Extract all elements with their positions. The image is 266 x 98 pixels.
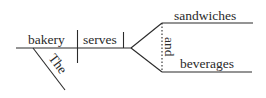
word-subject: bakery xyxy=(28,32,65,47)
word-object-bottom: beverages xyxy=(180,56,234,71)
sentence-diagram: bakery serves The sandwiches and beverag… xyxy=(0,0,266,98)
word-verb: serves xyxy=(83,32,117,47)
word-modifier: The xyxy=(46,51,71,77)
word-object-top: sandwiches xyxy=(174,8,236,23)
word-conjunction: and xyxy=(162,37,177,57)
fork-upper-branch xyxy=(131,23,162,48)
fork-lower-branch xyxy=(131,48,162,72)
